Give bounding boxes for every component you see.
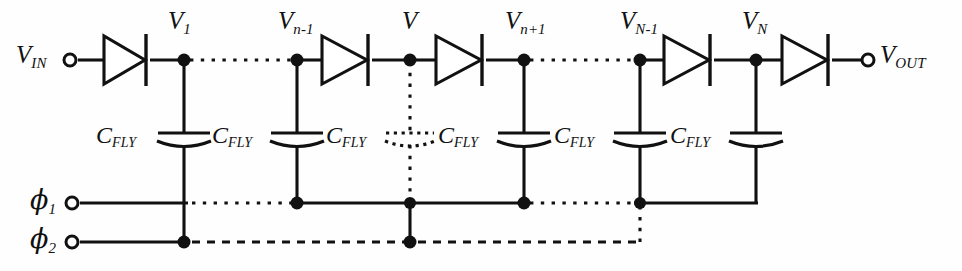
label-node-vn+1-symbol: V bbox=[505, 7, 520, 34]
label-phi1-symbol: ϕ bbox=[30, 184, 48, 215]
capacitor-branch-c4 bbox=[497, 60, 551, 203]
label-node-v1-subscript: 1 bbox=[183, 21, 191, 37]
label-phi1: ϕ1 bbox=[30, 186, 56, 217]
label-vout-symbol: V bbox=[880, 41, 895, 68]
label-node-vn+1: Vn+1 bbox=[505, 8, 546, 37]
junction-c5-phi1 bbox=[634, 197, 646, 209]
label-node-vN-subscript: N bbox=[757, 21, 767, 37]
label-node-v1-symbol: V bbox=[168, 7, 183, 34]
node-dot-vN-1 bbox=[634, 54, 647, 67]
label-node-v1: V1 bbox=[168, 8, 191, 37]
diode-d3 bbox=[436, 34, 482, 86]
label-node-vN-1: VN-1 bbox=[620, 8, 658, 37]
diode-d2 bbox=[322, 34, 368, 86]
label-cap-c1: CFLY bbox=[96, 123, 136, 150]
label-cap-c4-symbol: C bbox=[438, 122, 454, 148]
label-node-v: V bbox=[402, 8, 417, 37]
label-cap-c3: CFLY bbox=[326, 123, 366, 150]
schematic-svg bbox=[0, 0, 962, 271]
label-node-vn-1-symbol: V bbox=[278, 7, 293, 34]
label-phi2: ϕ2 bbox=[30, 225, 56, 256]
label-cap-c6: CFLY bbox=[670, 123, 710, 150]
label-node-vN-1-symbol: V bbox=[620, 7, 635, 34]
node-dot-vn-1 bbox=[291, 54, 304, 67]
junction-c3-phi2 bbox=[404, 236, 417, 249]
label-vin-subscript: IN bbox=[31, 55, 46, 71]
terminal-phi2 bbox=[66, 236, 78, 248]
label-node-vN: VN bbox=[742, 8, 767, 37]
label-node-vn-1: Vn-1 bbox=[278, 8, 314, 37]
label-cap-c6-subscript: FLY bbox=[686, 135, 710, 150]
label-cap-c5-symbol: C bbox=[554, 122, 570, 148]
label-cap-c2: CFLY bbox=[212, 123, 252, 150]
diode-d1 bbox=[104, 34, 146, 86]
label-phi2-symbol: ϕ bbox=[30, 223, 48, 254]
label-vin: VIN bbox=[16, 42, 46, 71]
label-node-vN-symbol: V bbox=[742, 7, 757, 34]
junction-c3-phi1 bbox=[404, 197, 416, 209]
label-cap-c5-subscript: FLY bbox=[570, 135, 594, 150]
label-node-vN-1-subscript: N-1 bbox=[635, 21, 658, 37]
terminal-phi1 bbox=[66, 197, 78, 209]
label-vout-subscript: OUT bbox=[895, 55, 925, 71]
junction-dots bbox=[178, 54, 763, 249]
label-cap-c1-subscript: FLY bbox=[112, 135, 136, 150]
label-node-vn-1-subscript: n-1 bbox=[293, 21, 313, 37]
label-phi1-subscript: 1 bbox=[48, 201, 56, 217]
capacitor-branch-c1 bbox=[157, 60, 211, 242]
capacitor-branch-c5 bbox=[613, 60, 667, 203]
label-cap-c4: CFLY bbox=[438, 123, 478, 150]
label-node-vn+1-subscript: n+1 bbox=[520, 21, 545, 37]
label-cap-c3-subscript: FLY bbox=[342, 135, 366, 150]
node-dot-v bbox=[404, 54, 417, 67]
label-vout: VOUT bbox=[880, 42, 926, 71]
node-dot-vn+1 bbox=[518, 54, 531, 67]
terminal-vin bbox=[64, 54, 76, 66]
label-cap-c4-subscript: FLY bbox=[454, 135, 478, 150]
circuit-diagram-canvas: VIN VOUT ϕ1 ϕ2 V1 Vn-1 V Vn+1 VN-1 VN CF… bbox=[0, 0, 962, 271]
label-cap-c5: CFLY bbox=[554, 123, 594, 150]
label-vin-symbol: V bbox=[16, 41, 31, 68]
label-node-v-symbol: V bbox=[402, 7, 417, 34]
label-cap-c2-symbol: C bbox=[212, 122, 228, 148]
junction-c4-phi1 bbox=[518, 197, 531, 210]
node-dot-vN bbox=[750, 54, 763, 67]
label-cap-c6-symbol: C bbox=[670, 122, 686, 148]
diode-d4 bbox=[664, 34, 710, 86]
label-cap-c2-subscript: FLY bbox=[228, 135, 252, 150]
capacitor-branch-c2 bbox=[270, 60, 324, 203]
node-dot-v1 bbox=[178, 54, 191, 67]
capacitor-branch-c3 bbox=[385, 62, 435, 242]
phi2-line bbox=[80, 205, 640, 242]
label-cap-c3-symbol: C bbox=[326, 122, 342, 148]
label-phi2-subscript: 2 bbox=[48, 240, 56, 256]
junction-c1-phi2 bbox=[178, 236, 191, 249]
diode-d5 bbox=[782, 34, 828, 86]
capacitor-branch-c6 bbox=[729, 60, 783, 204]
terminal-vout bbox=[862, 54, 874, 66]
junction-c2-phi1 bbox=[291, 197, 304, 210]
label-cap-c1-symbol: C bbox=[96, 122, 112, 148]
